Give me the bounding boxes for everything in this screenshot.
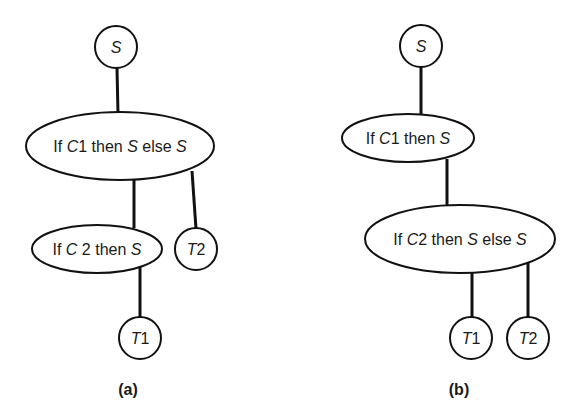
node-if-then: If C1 then S <box>342 114 474 162</box>
svg-text:T1: T1 <box>131 330 150 347</box>
node-if-then: If C 2 then S <box>32 225 162 273</box>
svg-text:T1: T1 <box>462 330 481 347</box>
svg-text:T2: T2 <box>187 241 206 258</box>
node-t2: T2 <box>175 228 217 270</box>
node-root: S <box>95 26 137 68</box>
svg-text:S: S <box>111 39 122 56</box>
node-t1: T1 <box>450 317 492 359</box>
node-t2: T2 <box>507 317 549 359</box>
svg-text:If C2 then S else S: If C2 then S else S <box>393 231 527 248</box>
svg-text:If C1 then S else S: If C1 then S else S <box>53 138 187 155</box>
svg-text:T2: T2 <box>519 330 538 347</box>
caption-b: (b) <box>449 381 469 398</box>
svg-text:If C 2 then S: If C 2 then S <box>53 241 142 258</box>
edge-if1-t2 <box>192 171 196 229</box>
diagram-b: S If C1 then S If C2 then S else S T1 T2… <box>342 25 555 398</box>
node-if-then-else: If C1 then S else S <box>26 112 214 180</box>
node-root: S <box>400 25 442 67</box>
parse-tree-figure: S If C1 then S else S If C 2 then S T2 T… <box>0 0 574 416</box>
node-if-then-else: If C2 then S else S <box>365 205 555 273</box>
node-t1: T1 <box>119 317 161 359</box>
svg-text:S: S <box>416 38 427 55</box>
edge-root-if1 <box>117 68 118 114</box>
diagram-a: S If C1 then S else S If C 2 then S T2 T… <box>26 26 217 398</box>
svg-text:If C1 then S: If C1 then S <box>366 130 451 147</box>
caption-a: (a) <box>118 381 138 398</box>
